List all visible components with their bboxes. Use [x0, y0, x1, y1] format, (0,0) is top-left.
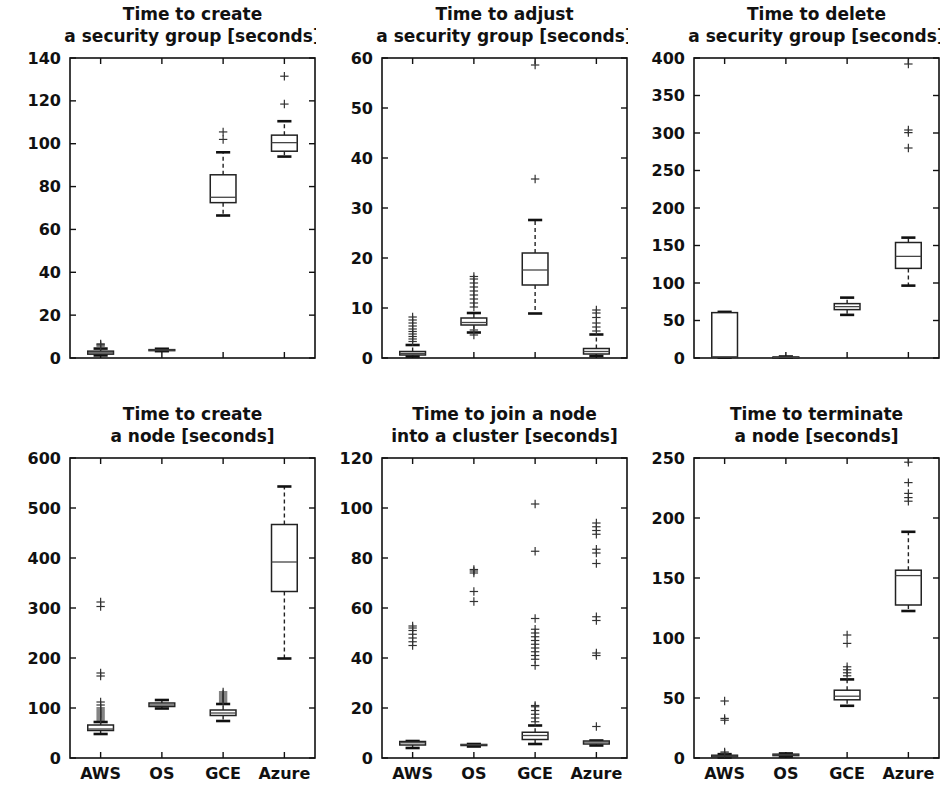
boxplot-gce [522, 61, 548, 314]
y-tick-label: 0 [50, 349, 61, 368]
x-tick-label-azure: Azure [570, 764, 622, 783]
x-tick-label-aws: AWS [392, 764, 433, 783]
x-tick-label-os: OS [149, 764, 174, 783]
y-tick-label: 120 [340, 449, 373, 468]
box-iqr [896, 243, 922, 269]
panel-title-line2: a security group [seconds] [64, 26, 316, 46]
y-tick-label: 0 [50, 749, 61, 768]
y-tick-label: 60 [351, 599, 373, 618]
axis-frame [382, 458, 627, 758]
y-tick-label: 100 [652, 629, 685, 648]
x-tick-label-azure: Azure [258, 764, 310, 783]
outlier-marker [904, 478, 912, 486]
y-tick-label: 100 [340, 499, 373, 518]
x-tick-label-os: OS [461, 764, 486, 783]
boxplot-azure [272, 72, 298, 157]
chart-panel-5: Time to terminatea node [seconds]0501001… [624, 400, 940, 804]
y-tick-label: 300 [652, 124, 685, 143]
outlier-marker [531, 61, 539, 69]
box-iqr [210, 175, 236, 203]
panel-title-line2: a node [seconds] [734, 426, 898, 446]
panel-title-line2: into a cluster [seconds] [391, 426, 617, 446]
panel-title-line1: Time to join a node [412, 404, 597, 424]
axis-frame [70, 458, 315, 758]
box-iqr [712, 313, 738, 358]
y-tick-label: 600 [28, 449, 61, 468]
box-iqr [461, 318, 487, 325]
chart-panel-0: Time to createa security group [seconds]… [0, 0, 316, 404]
y-tick-label: 60 [39, 220, 61, 239]
outlier-marker [720, 697, 728, 705]
outlier-marker [592, 559, 600, 567]
boxplot-azure [896, 60, 922, 286]
y-tick-label: 100 [28, 134, 61, 153]
y-tick-label: 300 [28, 599, 61, 618]
boxplot-aws [88, 598, 114, 734]
outlier-marker [96, 598, 104, 606]
boxplot-gce [210, 128, 236, 216]
outlier-marker [592, 519, 600, 527]
x-tick-label-gce: GCE [829, 764, 865, 783]
outlier-marker [720, 714, 728, 722]
x-tick-label-aws: AWS [704, 764, 745, 783]
boxplot-os [461, 272, 487, 339]
y-tick-label: 400 [652, 49, 685, 68]
outlier-marker [531, 701, 539, 709]
y-tick-label: 0 [674, 349, 685, 368]
outlier-marker [904, 144, 912, 152]
y-tick-label: 60 [351, 49, 373, 68]
outlier-marker [592, 613, 600, 621]
y-tick-label: 150 [652, 569, 685, 588]
chart-panel-4: Time to join a nodeinto a cluster [secon… [312, 400, 628, 804]
y-tick-label: 0 [674, 749, 685, 768]
y-tick-label: 100 [28, 699, 61, 718]
y-tick-label: 40 [39, 263, 61, 282]
x-tick-label-os: OS [773, 764, 798, 783]
boxplot-gce [522, 500, 548, 744]
x-tick-label-gce: GCE [517, 764, 553, 783]
y-tick-label: 150 [652, 236, 685, 255]
outlier-marker [219, 688, 227, 696]
boxplot-gce [834, 631, 860, 706]
outlier-marker [531, 547, 539, 555]
x-tick-label-azure: Azure [882, 764, 934, 783]
panel-title-line2: a node [seconds] [110, 426, 274, 446]
y-tick-label: 50 [663, 689, 685, 708]
boxplot-aws [88, 340, 114, 356]
chart-panel-2: Time to deletea security group [seconds]… [624, 0, 940, 404]
y-tick-label: 0 [362, 349, 373, 368]
outlier-marker [531, 614, 539, 622]
box-iqr [834, 690, 860, 700]
outlier-marker [280, 100, 288, 108]
boxplot-os [461, 565, 487, 746]
boxplot-gce [834, 298, 860, 315]
outlier-marker [904, 60, 912, 68]
chart-panel-3: Time to createa node [seconds]0100200300… [0, 400, 316, 804]
outlier-marker [219, 135, 227, 143]
y-tick-label: 250 [652, 449, 685, 468]
outlier-marker [592, 545, 600, 553]
panel-title-line1: Time to terminate [730, 404, 903, 424]
boxplot-os [149, 700, 175, 709]
boxplot-os [773, 357, 799, 358]
boxplot-azure [272, 487, 298, 659]
boxplot-azure [584, 519, 610, 746]
boxplot-azure [896, 458, 922, 611]
boxplot-aws [400, 622, 426, 748]
outlier-marker [470, 587, 478, 595]
panel-title-line1: Time to create [123, 404, 262, 424]
boxplot-aws [400, 313, 426, 357]
x-tick-label-aws: AWS [80, 764, 121, 783]
outlier-marker [280, 72, 288, 80]
outlier-marker [843, 639, 851, 647]
outlier-marker [843, 631, 851, 639]
panel-title-line1: Time to create [123, 4, 262, 24]
y-tick-label: 400 [28, 549, 61, 568]
y-tick-label: 200 [28, 649, 61, 668]
outlier-marker [531, 625, 539, 633]
boxplot-figure-grid: Time to createa security group [seconds]… [0, 0, 947, 807]
x-tick-label-gce: GCE [205, 764, 241, 783]
boxplot-aws [712, 312, 738, 358]
outlier-marker [470, 597, 478, 605]
y-tick-label: 100 [652, 274, 685, 293]
